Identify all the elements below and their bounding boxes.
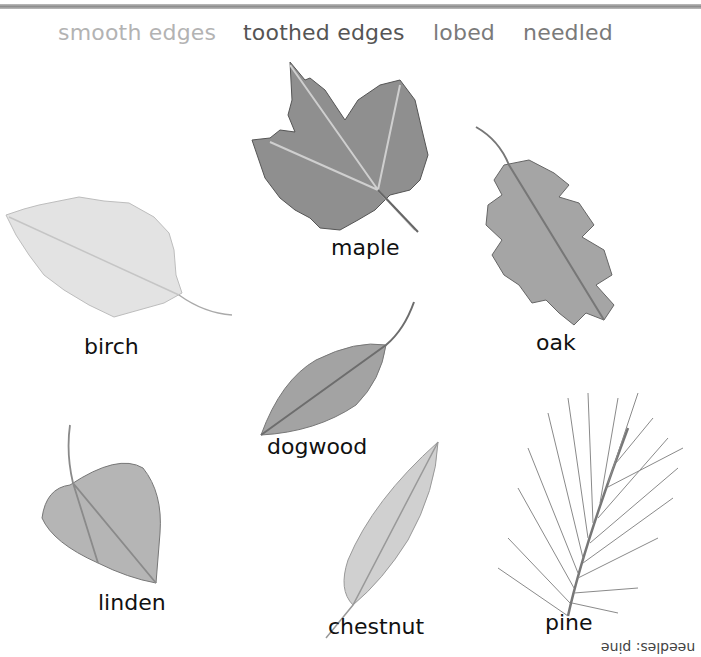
chestnut-label: chestnut <box>328 614 424 639</box>
category-needled: needled <box>523 20 613 45</box>
flipped-note: needles: pine <box>601 640 695 656</box>
category-lobed: lobed <box>433 20 495 45</box>
oak-label: oak <box>536 330 576 355</box>
maple-leaf-icon <box>250 60 440 240</box>
top-divider <box>0 4 701 9</box>
birch-label: birch <box>84 334 139 359</box>
birch-leaf-icon <box>4 195 234 320</box>
dogwood-leaf-icon <box>256 300 416 440</box>
linden-leaf-icon <box>38 423 173 588</box>
category-toothed-edges: toothed edges <box>243 20 405 45</box>
category-smooth-edges: smooth edges <box>58 20 216 45</box>
pine-needles-icon <box>488 388 688 618</box>
linden-label: linden <box>98 590 166 615</box>
chestnut-leaf-icon <box>318 440 443 640</box>
maple-label: maple <box>331 235 400 260</box>
oak-leaf-icon <box>474 125 624 335</box>
pine-label: pine <box>545 610 593 635</box>
